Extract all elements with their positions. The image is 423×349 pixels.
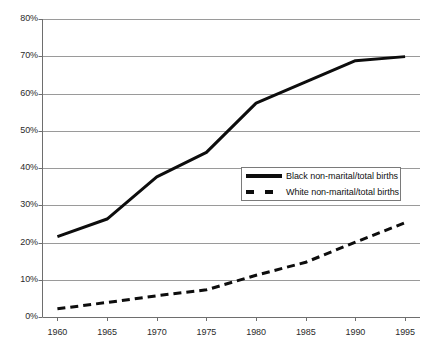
x-axis-tick-label: 1975 xyxy=(186,327,226,338)
y-axis-tick: 80% xyxy=(0,14,38,23)
chart-legend: Black non-marital/total births White non… xyxy=(241,167,401,201)
series-line-black xyxy=(57,57,405,237)
y-axis-tick: 60% xyxy=(0,89,38,98)
x-axis-tick: 1975 xyxy=(186,327,226,338)
legend-item-white: White non-marital/total births xyxy=(242,184,400,200)
y-axis-tick-label: 60% xyxy=(4,89,38,98)
x-axis-tick-label: 1995 xyxy=(385,327,423,338)
y-axis-tick-label: 0% xyxy=(4,312,38,321)
legend-swatch-dashed-line-icon xyxy=(242,184,286,200)
y-axis-tick-label: 80% xyxy=(4,14,38,23)
series-line-white xyxy=(57,223,405,309)
y-axis-tick-label: 20% xyxy=(4,238,38,247)
legend-swatch-solid-line-icon xyxy=(242,168,286,184)
y-axis-tick-label: 50% xyxy=(4,126,38,135)
x-axis-tick-label: 1960 xyxy=(37,327,77,338)
legend-item-black: Black non-marital/total births xyxy=(242,168,400,184)
y-axis-tick-label: 70% xyxy=(4,51,38,60)
x-axis-tick-label: 1965 xyxy=(87,327,127,338)
legend-label-white: White non-marital/total births xyxy=(286,187,399,197)
x-axis-tick: 1985 xyxy=(286,327,326,338)
y-axis-tick: 40% xyxy=(0,163,38,172)
x-axis-tick-label: 1970 xyxy=(137,327,177,338)
chart-container: 80%70%60%50%40%30%20%10%0% 1960196519701… xyxy=(0,0,423,349)
y-axis-tick-label: 10% xyxy=(4,275,38,284)
y-axis-tick: 20% xyxy=(0,238,38,247)
x-axis-tick-label: 1990 xyxy=(335,327,375,338)
y-axis-tick: 0% xyxy=(0,312,38,321)
y-axis-tick: 10% xyxy=(0,275,38,284)
y-axis-tick-label: 40% xyxy=(4,163,38,172)
x-axis-tick-label: 1985 xyxy=(286,327,326,338)
x-axis-tick: 1995 xyxy=(385,327,423,338)
y-axis-tick: 70% xyxy=(0,51,38,60)
x-axis-tick: 1970 xyxy=(137,327,177,338)
x-axis-tick: 1990 xyxy=(335,327,375,338)
x-axis-tick: 1980 xyxy=(236,327,276,338)
legend-label-black: Black non-marital/total births xyxy=(286,171,398,181)
y-axis-tick: 30% xyxy=(0,200,38,209)
y-tick-mark-group xyxy=(39,20,43,318)
y-axis-tick-label: 30% xyxy=(4,200,38,209)
y-axis-tick: 50% xyxy=(0,126,38,135)
x-axis-tick: 1965 xyxy=(87,327,127,338)
x-axis-tick-label: 1980 xyxy=(236,327,276,338)
x-axis-tick: 1960 xyxy=(37,327,77,338)
